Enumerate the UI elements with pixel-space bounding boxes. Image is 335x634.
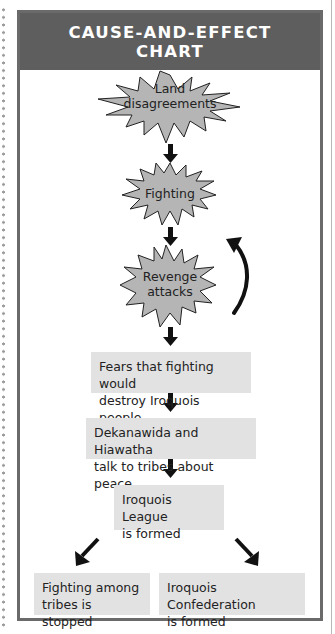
box-text-line1: Fears that fighting would	[99, 358, 243, 392]
burst-text-line2: disagreements	[120, 96, 220, 111]
burst-fighting: Fighting	[130, 186, 210, 201]
box-text-line2: is formed	[167, 613, 297, 630]
burst-text-line2: attacks	[130, 284, 210, 299]
box-text-line1: Fighting among	[42, 579, 142, 596]
arrow-down-right	[236, 539, 259, 566]
burst-text-line1: Fighting	[130, 186, 210, 201]
curved-arrow-up-icon	[226, 237, 247, 313]
arrow-down-2	[163, 227, 178, 246]
box-text-line1: Iroquois Confederation	[167, 579, 297, 613]
burst-text-line1: Land	[120, 81, 220, 96]
burst-text-line1: Revenge	[130, 269, 210, 284]
burst-land-disagreements: Land disagreements	[120, 81, 220, 111]
dotted-margin	[1, 6, 6, 630]
cause-effect-chart-panel: CAUSE-AND-EFFECT CHART	[17, 10, 323, 621]
arrow-down-left	[75, 539, 98, 566]
box-dekanawida-hiawatha: Dekanawida and Hiawatha talk to tribes a…	[86, 418, 256, 459]
box-text-line2: tribes is stopped	[42, 596, 142, 630]
box-text-line1: Iroquois League	[122, 491, 216, 525]
box-text-line1: Dekanawida and Hiawatha	[94, 424, 248, 458]
arrow-down-3	[163, 327, 178, 346]
outcome-fighting-stopped: Fighting among tribes is stopped	[34, 573, 150, 615]
page-rule	[331, 0, 332, 634]
box-text-line2: is formed	[122, 525, 216, 542]
outcome-confederation-formed: Iroquois Confederation is formed	[159, 573, 305, 615]
box-iroquois-league: Iroquois League is formed	[114, 485, 224, 530]
burst-revenge-attacks: Revenge attacks	[130, 269, 210, 299]
box-fears: Fears that fighting would destroy Iroquo…	[91, 352, 251, 393]
arrow-down-1	[163, 144, 178, 163]
